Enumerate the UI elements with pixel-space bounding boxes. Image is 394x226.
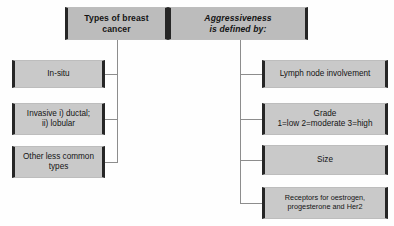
connector-right-branch-4	[240, 203, 263, 204]
node-invasive-label: Invasive i) ductal; ii) lobular	[23, 109, 94, 128]
node-size-label: Size	[313, 155, 337, 165]
connector-left-trunk	[117, 40, 118, 162]
node-lymph-node-involvement[interactable]: Lymph node involvement	[262, 60, 388, 88]
connector-right-branch-2	[240, 119, 263, 120]
connector-right-trunk	[240, 40, 241, 203]
node-invasive[interactable]: Invasive i) ductal; ii) lobular	[12, 103, 105, 135]
node-other-less-common-types[interactable]: Other less common types	[12, 146, 105, 178]
header-types-of-breast-cancer-label: Types of breast cancer	[80, 13, 152, 33]
header-types-of-breast-cancer[interactable]: Types of breast cancer	[65, 7, 168, 40]
header-aggressiveness[interactable]: Aggressiveness is defined by:	[168, 7, 308, 40]
node-grade-label: Grade 1=low 2=moderate 3=high	[274, 109, 377, 128]
node-in-situ[interactable]: In-situ	[12, 60, 105, 88]
connector-right-branch-3	[240, 160, 263, 161]
node-in-situ-label: In-situ	[43, 69, 73, 79]
node-lymph-node-involvement-label: Lymph node involvement	[276, 69, 375, 79]
node-receptors-label: Receptors for oestrogen, progesterone an…	[281, 194, 369, 211]
connector-right-branch-1	[240, 74, 263, 75]
node-size[interactable]: Size	[262, 145, 388, 175]
node-grade[interactable]: Grade 1=low 2=moderate 3=high	[262, 103, 388, 135]
header-aggressiveness-label: Aggressiveness is defined by:	[200, 13, 275, 33]
node-other-less-common-types-label: Other less common types	[19, 152, 98, 171]
connector-left-branch-2	[105, 119, 118, 120]
node-receptors[interactable]: Receptors for oestrogen, progesterone an…	[262, 187, 388, 219]
connector-left-branch-3	[105, 162, 118, 163]
diagram-canvas: Types of breast cancer Aggressiveness is…	[0, 0, 394, 226]
connector-left-branch-1	[105, 74, 118, 75]
